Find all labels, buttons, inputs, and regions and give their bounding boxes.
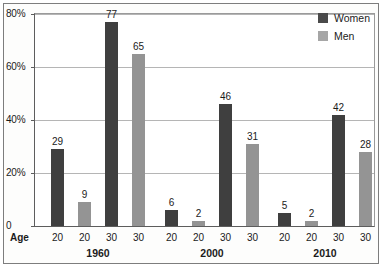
age-tick-label: 20: [160, 232, 184, 243]
y-axis-tick-label: 60%: [6, 62, 34, 72]
chart-legend: WomenMen: [318, 10, 370, 46]
bar-value-label: 2: [300, 208, 324, 219]
bar-2010-men-age30: [359, 152, 372, 226]
age-tick-label: 20: [73, 232, 97, 243]
chart-figure: 020%40%60%80% WomenMen Age 2920920773065…: [3, 3, 379, 264]
age-tick-label: 30: [100, 232, 124, 243]
bar-2010-women-age30: [332, 115, 345, 226]
bar-value-label: 5: [273, 200, 297, 211]
group-label-2010: 2010: [290, 247, 360, 259]
y-axis-tick: [31, 67, 35, 68]
bar-value-label: 77: [100, 9, 124, 20]
age-tick-label: 30: [327, 232, 351, 243]
bar-1960-men-age20: [78, 202, 91, 226]
y-axis-tick: [31, 14, 35, 15]
bar-1960-women-age20: [51, 149, 64, 226]
y-axis-tick: [31, 173, 35, 174]
age-tick-label: 20: [273, 232, 297, 243]
age-tick-label: 30: [127, 232, 151, 243]
age-tick-label: 20: [187, 232, 211, 243]
y-axis-tick-label: 0: [6, 221, 34, 231]
bar-value-label: 29: [46, 136, 70, 147]
y-axis: 020%40%60%80%: [4, 4, 34, 265]
legend-swatch-icon: [318, 13, 328, 23]
y-axis-tick-label: 40%: [6, 115, 34, 125]
group-label-1960: 1960: [63, 247, 133, 259]
gridline: [35, 67, 374, 68]
bar-2000-women-age20: [165, 210, 178, 226]
bar-value-label: 42: [327, 102, 351, 113]
bar-2010-men-age20: [305, 221, 318, 226]
gridline: [35, 120, 374, 121]
legend-label: Men: [334, 30, 354, 42]
bar-value-label: 31: [241, 131, 265, 142]
bar-value-label: 28: [354, 139, 378, 150]
gridline: [35, 173, 374, 174]
bar-2000-women-age30: [219, 104, 232, 226]
age-tick-label: 30: [241, 232, 265, 243]
y-axis-tick-label: 80%: [6, 9, 34, 19]
bar-value-label: 6: [160, 197, 184, 208]
y-axis-tick-label: 20%: [6, 168, 34, 178]
bar-2000-men-age20: [192, 221, 205, 226]
age-axis-label: Age: [10, 232, 29, 243]
age-tick-label: 30: [354, 232, 378, 243]
age-tick-label: 20: [46, 232, 70, 243]
bar-value-label: 65: [127, 41, 151, 52]
legend-swatch-icon: [318, 31, 328, 41]
bar-2000-men-age30: [246, 144, 259, 226]
group-label-2000: 2000: [177, 247, 247, 259]
age-tick-label: 30: [214, 232, 238, 243]
bar-value-label: 46: [214, 91, 238, 102]
legend-label: Women: [334, 12, 370, 24]
bar-value-label: 9: [73, 189, 97, 200]
y-axis-tick: [31, 120, 35, 121]
bar-1960-women-age30: [105, 22, 118, 226]
age-tick-label: 20: [300, 232, 324, 243]
legend-item-men[interactable]: Men: [318, 28, 370, 44]
legend-item-women[interactable]: Women: [318, 10, 370, 26]
y-axis-tick: [31, 226, 35, 227]
bar-2010-women-age20: [278, 213, 291, 226]
bar-value-label: 2: [187, 208, 211, 219]
bar-1960-men-age30: [132, 54, 145, 226]
